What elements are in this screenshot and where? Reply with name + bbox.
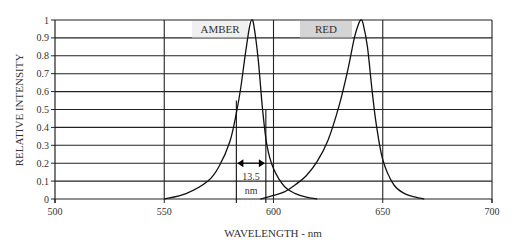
fwhm-value-label: 13.5 — [242, 171, 260, 182]
x-axis-label: WAVELENGTH - nm — [224, 227, 322, 239]
y-tick-label: 0 — [44, 194, 49, 205]
x-tick-label: 500 — [48, 206, 63, 217]
y-tick-label: 0.9 — [37, 32, 50, 43]
y-tick-label: 0.7 — [37, 68, 50, 79]
x-tick-label: 550 — [157, 206, 172, 217]
grid-lines — [55, 20, 492, 199]
fwhm-annotation: 13.5nm — [236, 101, 265, 203]
y-tick-label: 1 — [44, 15, 49, 26]
y-tick-label: 0.3 — [37, 140, 50, 151]
x-tick-label: 700 — [485, 206, 500, 217]
y-tick-label: 0.4 — [37, 122, 50, 133]
y-tick-label: 0.6 — [37, 86, 50, 97]
axes: 00.10.20.30.40.50.60.70.80.9150055060065… — [37, 15, 500, 218]
spectrum-chart: AMBERRED 00.10.20.30.40.50.60.70.80.9150… — [0, 0, 514, 243]
fwhm-unit-label: nm — [245, 185, 258, 196]
series-label-red: RED — [315, 23, 337, 35]
series-label-boxes: AMBERRED — [192, 21, 352, 38]
y-tick-label: 0.1 — [37, 176, 50, 187]
x-tick-label: 650 — [375, 206, 390, 217]
x-tick-label: 600 — [266, 206, 281, 217]
series-label-amber: AMBER — [200, 23, 240, 35]
y-tick-label: 0.2 — [37, 158, 50, 169]
y-axis-label: RELATIVE INTENSITY — [13, 54, 25, 167]
y-tick-label: 0.5 — [37, 104, 50, 115]
arrowhead-right-icon — [259, 159, 265, 167]
y-tick-label: 0.8 — [37, 50, 50, 61]
arrowhead-left-icon — [237, 159, 243, 167]
